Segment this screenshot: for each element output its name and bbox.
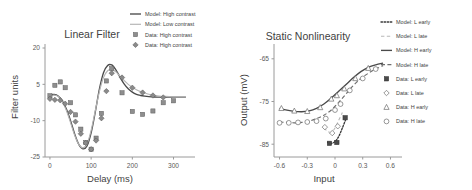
marker-diamond xyxy=(109,70,114,75)
marker-circle-open xyxy=(286,120,291,125)
static-nonlinearity-tick-labels: -65-75-85-0.6-0.300.30.6 xyxy=(259,55,395,169)
legend-glyph-square xyxy=(133,33,137,37)
legend-glyph-circle-open xyxy=(384,119,389,124)
marker-circle-open xyxy=(305,120,310,125)
marker-diamond xyxy=(161,95,166,100)
y-tick-label: 20 xyxy=(33,44,41,51)
legend-label: Model: L early xyxy=(396,19,431,25)
marker-square xyxy=(110,66,114,70)
marker-square-filled xyxy=(327,141,331,145)
model-curve xyxy=(328,119,346,144)
marker-square xyxy=(73,113,77,117)
marker-diamond xyxy=(73,119,78,124)
x-tick-label: 100 xyxy=(86,162,97,169)
marker-square xyxy=(58,80,62,84)
legend-label: Data: L late xyxy=(396,90,424,96)
marker-circle-open xyxy=(333,108,338,113)
model-curve xyxy=(50,69,186,148)
x-tick-label: 0.6 xyxy=(386,162,395,169)
legend-item: Model: H early xyxy=(381,47,432,53)
legend-label: Model: H early xyxy=(396,47,432,53)
panel-static-nonlinearity: Static Nonlinearity Output (mV) Input -6… xyxy=(236,0,472,190)
marker-diamond xyxy=(99,116,104,121)
marker-circle-open xyxy=(360,76,365,81)
marker-circle-open xyxy=(338,102,343,107)
y-axis-label-filter-units: Filter units xyxy=(9,75,20,119)
marker-diamond-open xyxy=(335,124,340,129)
legend-label: Data: L early xyxy=(396,76,427,82)
marker-square-filled xyxy=(335,140,339,144)
static-nonlinearity-data-markers xyxy=(277,65,378,145)
panel-title-static-nonlinearity: Static Nonlinearity xyxy=(266,30,351,42)
marker-circle-open xyxy=(314,119,319,124)
data-series-diamond-open xyxy=(322,124,340,136)
x-tick-label: 0.3 xyxy=(358,162,367,169)
y-tick-label: -10 xyxy=(30,117,40,124)
y-tick-label: -25 xyxy=(30,153,40,160)
marker-square xyxy=(99,111,103,115)
legend-label: Model: H late xyxy=(396,62,428,68)
marker-square-filled xyxy=(343,116,347,120)
marker-square xyxy=(79,127,83,131)
data-series-triangle-open xyxy=(279,65,371,113)
marker-diamond xyxy=(52,97,57,102)
legend-label: Model: High contrast xyxy=(145,11,196,17)
y-tick-label: -85 xyxy=(259,141,269,148)
marker-square xyxy=(151,109,155,113)
legend-item: Data: H late xyxy=(384,118,425,124)
legend-item: Model: L late xyxy=(381,33,427,39)
marker-circle-open xyxy=(323,116,328,121)
legend-item: Model: L early xyxy=(381,19,431,25)
x-tick-label: -0.3 xyxy=(302,162,314,169)
marker-circle-open xyxy=(296,120,301,125)
model-curve xyxy=(280,66,384,123)
panel-linear-filter: Linear Filter Filter units Delay (ms) 20… xyxy=(0,0,236,190)
legend-item: Model: High contrast xyxy=(130,11,196,17)
y-tick-label: -75 xyxy=(259,98,269,105)
panel-title-linear-filter: Linear Filter xyxy=(64,28,120,40)
marker-square xyxy=(171,99,175,103)
x-tick-label: 300 xyxy=(168,162,179,169)
marker-square xyxy=(120,91,124,95)
marker-square xyxy=(104,79,108,83)
model-curve xyxy=(324,113,342,133)
marker-square xyxy=(161,101,165,105)
figure-two-panel: Linear Filter Filter units Delay (ms) 20… xyxy=(0,0,472,190)
legend-label: Data: H early xyxy=(396,104,428,110)
marker-square xyxy=(63,86,67,90)
marker-square xyxy=(53,83,57,87)
legend-label: Data: H late xyxy=(396,118,425,124)
data-series-circle-open xyxy=(277,67,378,126)
x-axis-label-input: Input xyxy=(313,173,334,184)
y-axis-label-output: Output (mV) xyxy=(238,74,249,126)
x-tick-label: 200 xyxy=(127,162,138,169)
linear-filter-legend: Model: High contrastModel: Low contrastD… xyxy=(130,11,196,48)
legend-item: Data: H early xyxy=(384,104,428,110)
legend-glyph-diamond-open xyxy=(384,90,389,95)
marker-diamond-open xyxy=(322,124,327,129)
legend-glyph-square-filled xyxy=(384,77,388,81)
legend-item: Model: Low contrast xyxy=(130,21,195,27)
legend-glyph-triangle-open xyxy=(384,104,389,109)
x-tick-label: 0 xyxy=(333,162,337,169)
x-tick-label: 0 xyxy=(48,162,52,169)
legend-item: Data: High contrast xyxy=(133,42,193,48)
legend-glyph-diamond xyxy=(133,42,138,47)
marker-circle-open xyxy=(277,120,282,125)
marker-circle-open xyxy=(347,88,352,93)
marker-diamond xyxy=(104,88,109,93)
marker-diamond-open xyxy=(330,130,335,135)
model-curve xyxy=(50,64,186,148)
linear-filter-plot: Linear Filter Filter units Delay (ms) 20… xyxy=(0,0,236,190)
data-series-square-filled xyxy=(327,116,347,146)
marker-square xyxy=(141,112,145,116)
marker-square xyxy=(130,109,134,113)
linear-filter-tick-labels: 205-10-250100200300 xyxy=(30,44,179,169)
legend-label: Model: L late xyxy=(396,33,427,39)
legend-item: Model: H late xyxy=(381,62,428,68)
x-tick-label: -0.6 xyxy=(274,162,286,169)
marker-diamond xyxy=(78,131,83,136)
marker-diamond xyxy=(140,90,145,95)
legend-item: Data: High contrast xyxy=(133,32,192,38)
y-tick-label: 5 xyxy=(36,81,40,88)
